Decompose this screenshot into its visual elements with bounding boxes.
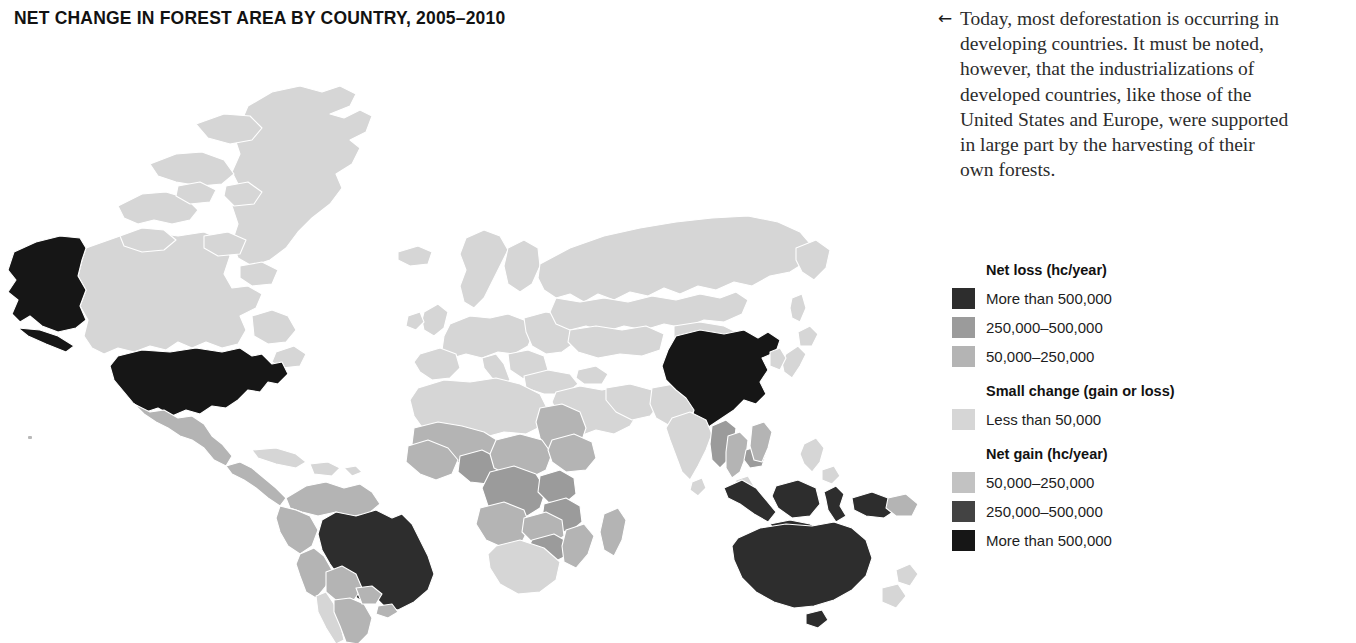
world-map[interactable] xyxy=(0,36,930,643)
legend-item[interactable]: More than 500,000 xyxy=(944,284,1344,313)
country-russia-kamchatka[interactable] xyxy=(796,240,830,280)
country-madagascar[interactable] xyxy=(600,508,626,556)
country-cuba[interactable] xyxy=(252,448,306,468)
legend-swatch xyxy=(952,472,975,493)
country-mozambique[interactable] xyxy=(562,524,594,568)
country-kenya-uganda[interactable] xyxy=(538,470,576,504)
caption-block: ← Today, most deforestation is occurring… xyxy=(938,6,1356,182)
country-ethiopia[interactable] xyxy=(548,434,596,472)
country-caucasus[interactable] xyxy=(576,366,608,384)
country-sakhalin[interactable] xyxy=(790,294,806,322)
country-hispaniola[interactable] xyxy=(310,462,340,476)
legend-heading: Small change (gain or loss) xyxy=(986,383,1344,399)
country-ireland[interactable] xyxy=(406,312,424,330)
legend-item-label: Less than 50,000 xyxy=(986,411,1101,428)
world-map-svg[interactable] xyxy=(0,36,930,643)
legend-item[interactable]: 50,000–250,000 xyxy=(944,468,1344,497)
country-mexico[interactable] xyxy=(134,404,232,466)
legend-item[interactable]: 250,000–500,000 xyxy=(944,313,1344,342)
country-russia[interactable] xyxy=(538,216,812,302)
legend-item[interactable]: More than 500,000 xyxy=(944,526,1344,555)
country-philippines-south[interactable] xyxy=(822,466,840,484)
country-philippines[interactable] xyxy=(800,438,824,472)
country-japan-north[interactable] xyxy=(798,326,818,346)
country-japan[interactable] xyxy=(782,346,806,378)
legend-item-label: 50,000–250,000 xyxy=(986,474,1094,491)
country-central-america[interactable] xyxy=(226,462,286,506)
infographic-page: NET CHANGE IN FOREST AREA BY COUNTRY, 20… xyxy=(0,0,1356,643)
country-canada-arctic-8[interactable] xyxy=(240,262,278,286)
country-canada-arctic-2[interactable] xyxy=(150,152,234,186)
legend-swatch xyxy=(952,530,975,551)
legend-heading: Net gain (hc/year) xyxy=(986,446,1344,462)
legend-item-label: 250,000–500,000 xyxy=(986,503,1103,520)
country-norway-sweden[interactable] xyxy=(460,230,508,308)
legend-swatch xyxy=(952,288,975,309)
country-canada-labrador[interactable] xyxy=(252,310,296,344)
legend-swatch xyxy=(952,346,975,367)
left-arrow-icon: ← xyxy=(938,6,960,31)
country-iceland[interactable] xyxy=(398,246,432,266)
legend-item-label: 250,000–500,000 xyxy=(986,319,1103,336)
caption-paragraph: Today, most deforestation is occurring i… xyxy=(960,6,1290,182)
legend-item[interactable]: 250,000–500,000 xyxy=(944,497,1344,526)
country-new-zealand-south[interactable] xyxy=(882,584,906,608)
country-tasmania[interactable] xyxy=(806,610,828,628)
country-finland[interactable] xyxy=(504,240,540,292)
legend-swatch xyxy=(952,409,975,430)
country-borneo[interactable] xyxy=(772,480,820,518)
legend-item-label: More than 500,000 xyxy=(986,532,1112,549)
country-sumatra[interactable] xyxy=(724,480,776,522)
country-alaska-aleutians[interactable] xyxy=(18,328,74,352)
map-speck xyxy=(28,436,32,439)
page-title: NET CHANGE IN FOREST AREA BY COUNTRY, 20… xyxy=(14,8,505,29)
country-new-zealand-north[interactable] xyxy=(896,564,918,586)
country-united-kingdom[interactable] xyxy=(422,304,448,336)
country-alaska[interactable] xyxy=(8,236,86,332)
legend-heading: Net loss (hc/year) xyxy=(986,262,1344,278)
legend-swatch xyxy=(952,501,975,522)
country-puerto-rico[interactable] xyxy=(344,466,362,476)
legend-item-label: More than 500,000 xyxy=(986,290,1112,307)
right-column: ← Today, most deforestation is occurring… xyxy=(938,0,1356,643)
legend-group-net-loss: Net loss (hc/year) More than 500,000 250… xyxy=(944,262,1344,371)
map-legend: Net loss (hc/year) More than 500,000 250… xyxy=(944,262,1344,555)
country-venezuela[interactable] xyxy=(286,482,380,516)
legend-group-small-change: Small change (gain or loss) Less than 50… xyxy=(944,383,1344,434)
legend-swatch xyxy=(952,317,975,338)
country-vietnam[interactable] xyxy=(750,422,772,462)
country-canada-arctic-3[interactable] xyxy=(196,114,262,144)
country-australia[interactable] xyxy=(732,522,872,608)
legend-item[interactable]: 50,000–250,000 xyxy=(944,342,1344,371)
country-iberia[interactable] xyxy=(414,348,460,380)
country-india[interactable] xyxy=(666,412,712,480)
country-sri-lanka[interactable] xyxy=(690,478,706,496)
legend-group-net-gain: Net gain (hc/year) 50,000–250,000 250,00… xyxy=(944,446,1344,555)
country-greenland[interactable] xyxy=(232,86,372,266)
legend-item[interactable]: Less than 50,000 xyxy=(944,405,1344,434)
country-kazakhstan[interactable] xyxy=(568,326,664,358)
country-sulawesi[interactable] xyxy=(824,486,846,522)
legend-item-label: 50,000–250,000 xyxy=(986,348,1094,365)
